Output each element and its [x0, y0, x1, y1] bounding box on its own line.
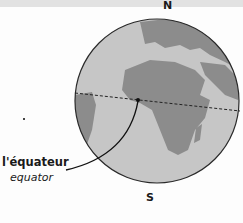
north-label: N: [163, 0, 172, 12]
equator-label-french: l'équateur: [2, 155, 69, 169]
globe: [66, 18, 240, 183]
equator-label-english: equator: [10, 171, 53, 184]
stray-mark: [23, 118, 25, 120]
south-label: S: [146, 191, 154, 204]
globe-diagram: [0, 0, 243, 223]
